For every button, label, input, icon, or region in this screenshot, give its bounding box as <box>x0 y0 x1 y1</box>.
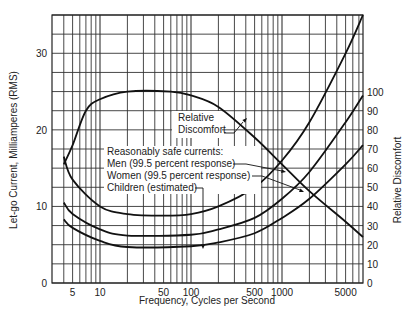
y2-tick-label: 10 <box>367 259 379 270</box>
y-tick-label: 10 <box>36 201 48 212</box>
y2-tick-label: 100 <box>367 87 384 98</box>
y2-tick-label: 40 <box>367 201 379 212</box>
y2-tick-label: 70 <box>367 144 379 155</box>
y2-tick-label: 80 <box>367 125 379 136</box>
y-tick-label: 30 <box>36 48 48 59</box>
x-tick-label: 5 <box>70 287 76 298</box>
discomfort-label-2: Discomfort <box>178 124 226 135</box>
women-label: Women (99.5 percent response) <box>107 170 250 181</box>
y-tick-label: 0 <box>41 278 47 289</box>
chart: 5105010050010005000010203001020304050607… <box>0 0 411 323</box>
y2-axis-label: Relative Discomfort <box>392 136 403 223</box>
x-tick-label: 5000 <box>334 287 357 298</box>
x-tick-label: 10 <box>94 287 106 298</box>
y2-tick-label: 90 <box>367 106 379 117</box>
y-axis-label: Let-go Current, Milliamperes (RMS) <box>8 71 19 229</box>
discomfort-label-1: Relative <box>178 112 215 123</box>
y2-tick-label: 50 <box>367 182 379 193</box>
safe-currents-heading: Reasonably safe currents: <box>107 146 223 157</box>
y2-tick-label: 60 <box>367 163 379 174</box>
y2-tick-label: 20 <box>367 240 379 251</box>
men-label: Men (99.5 percent response) <box>107 158 235 169</box>
y-tick-label: 20 <box>36 125 48 136</box>
children-label: Children (estimated) <box>107 182 197 193</box>
y2-tick-label: 0 <box>367 278 373 289</box>
y2-tick-label: 30 <box>367 221 379 232</box>
x-axis-label: Frequency, Cycles per Second <box>139 295 275 306</box>
